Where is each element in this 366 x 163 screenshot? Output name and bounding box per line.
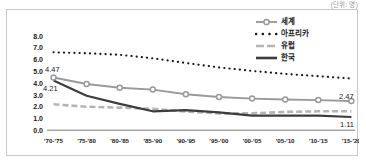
y-tick-label: 5.0 [33, 68, 43, 75]
x-tick-label: '95-'00 [210, 137, 229, 144]
x-axis-tick-labels: '70-'75 '75-'80 '80-'85 '85-'90 '90-'95 … [44, 137, 359, 144]
legend-item-korea[interactable]: 한국 [256, 52, 295, 62]
chart-legend[interactable]: 세계 아프리카 유럽 한국 [256, 16, 309, 62]
chart-frame: 8.0 7.0 6.0 5.0 4.0 3.0 2.0 1.0 0.0 [6, 9, 358, 156]
chart-plot-area: 8.0 7.0 6.0 5.0 4.0 3.0 2.0 1.0 0.0 [7, 10, 359, 157]
legend-item-europe[interactable]: 유럽 [256, 40, 295, 50]
x-tick-label: '15-'20 [342, 137, 359, 144]
unit-note: (단위: 명) [331, 0, 358, 9]
y-tick-label: 0.0 [33, 127, 43, 134]
y-tick-label: 6.0 [33, 56, 43, 63]
fertility-rate-line-chart: 8.0 7.0 6.0 5.0 4.0 3.0 2.0 1.0 0.0 [7, 10, 359, 157]
legend-label: 한국 [281, 52, 295, 62]
y-axis-tick-labels: 8.0 7.0 6.0 5.0 4.0 3.0 2.0 1.0 0.0 [33, 33, 43, 134]
world-start-label: 4.47 [45, 65, 60, 74]
korea-end-label: 1.11 [340, 120, 354, 129]
series-africa [54, 52, 352, 78]
y-tick-label: 7.0 [33, 44, 43, 51]
x-tick-label: '70-'75 [44, 137, 63, 144]
legend-label: 아프리카 [281, 28, 309, 38]
circle-marker-icon [264, 19, 269, 24]
legend-item-africa[interactable]: 아프리카 [256, 28, 309, 38]
y-tick-label: 1.0 [33, 115, 43, 122]
y-tick-label: 2.0 [33, 103, 43, 110]
x-tick-label: '00-'05 [243, 137, 262, 144]
x-tick-label: '75-'80 [77, 137, 96, 144]
x-tick-label: '10-'15 [309, 137, 328, 144]
legend-label: 유럽 [281, 40, 295, 50]
x-tick-label: '85-'90 [143, 137, 162, 144]
legend-item-world[interactable]: 세계 [256, 16, 295, 26]
x-tick-label: '80-'85 [110, 137, 129, 144]
y-tick-label: 4.0 [33, 80, 43, 87]
korea-start-label: 4.21 [43, 84, 58, 93]
y-tick-label: 8.0 [33, 33, 43, 40]
y-tick-label: 3.0 [33, 92, 43, 99]
x-tick-label: '05-'10 [276, 137, 295, 144]
world-end-label: 2.47 [339, 92, 354, 101]
x-tick-label: '90-'95 [177, 137, 196, 144]
legend-label: 세계 [281, 16, 295, 26]
